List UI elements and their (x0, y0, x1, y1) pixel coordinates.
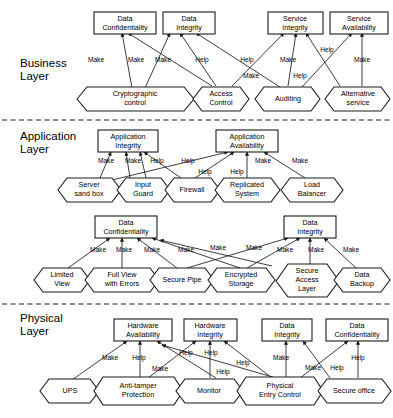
edge-label-crypto-dataint: Make (128, 56, 144, 63)
layer-label-physical-line1: Physical (20, 312, 63, 324)
goal-label-line1: Application (110, 132, 145, 141)
edge-label-pipe-dataint: Make (246, 244, 262, 251)
goal-business-service-availability[interactable]: Service Availability (330, 12, 388, 34)
goal-label-line2: Confidentiality (334, 330, 380, 339)
edge-label-entry-hwavail: Help (216, 368, 230, 376)
task-secure-office[interactable]: Secure office (318, 379, 391, 403)
edge-label-server-appavail: Help (198, 168, 212, 176)
task-data-backup[interactable]: Data Backup (334, 268, 390, 292)
edge-label-alt-servint: Help (320, 46, 334, 54)
goal-application-availability[interactable]: Application Availability (216, 130, 278, 152)
edge-label-backup-dataint: Make (343, 246, 359, 253)
goal-label-line1: Application (229, 132, 264, 141)
task-label-line2: service (347, 98, 370, 107)
task-label-line1: UPS (63, 386, 78, 395)
goal-label-line2: Integrity (282, 23, 308, 32)
goal-label-line1: Data (118, 218, 133, 227)
edge-label-audit-servavail: Help (293, 72, 307, 80)
goal-label-line1: Data (279, 321, 294, 330)
task-label-line2: Backup (350, 279, 374, 288)
goal-label-line1: Hardware (194, 321, 225, 330)
goal-model-diagram: Business Layer Data Confidentiality Data… (0, 0, 393, 418)
goal-physical-hardware-availability[interactable]: Hardware Availability (114, 319, 172, 341)
goal-label-line2: Integrity (274, 330, 300, 339)
task-cryptographic-control[interactable]: Cryptographic control (77, 87, 194, 111)
edge-label-anti-hwint: Make (152, 365, 168, 372)
task-encrypted-storage[interactable]: Encrypted Storage (208, 268, 275, 292)
task-alternative-service[interactable]: Alternative service (325, 87, 390, 111)
task-label-line1: Data (354, 270, 369, 279)
edge-label-access-dataconf: Make (155, 56, 171, 63)
goal-application-data-confidentiality[interactable]: Data Confidentiality (95, 216, 157, 238)
task-label-line1: Server (78, 180, 100, 189)
goal-application-data-integrity[interactable]: Data Integrity (284, 216, 336, 238)
goal-business-data-confidentiality[interactable]: Data Confidentiality (94, 12, 156, 34)
task-label-line1: Anti-tamper (119, 381, 157, 390)
task-secure-access-layer[interactable]: Secure Access Layer (276, 264, 339, 297)
task-label-line2: View (54, 279, 70, 288)
task-anti-tamper-protection[interactable]: Anti-tamper Protection (94, 377, 183, 405)
task-label-line1: Auditing (275, 94, 301, 103)
task-label-line1: Encrypted (225, 270, 257, 279)
task-physical-entry-control[interactable]: Physical Entry Control (237, 377, 323, 405)
goal-physical-data-integrity[interactable]: Data Integrity (262, 319, 312, 341)
edge-label-firewall-appavail: Help (230, 168, 244, 176)
goal-application-integrity[interactable]: Application Integrity (98, 130, 158, 152)
task-replicated-system[interactable]: Replicated System (215, 178, 280, 202)
goal-business-data-integrity[interactable]: Data Integrity (163, 12, 215, 34)
edge-label-pipe-dataconf: Make (144, 246, 160, 253)
edge-label-sal-dataconf: Make (210, 244, 226, 251)
goal-label-line1: Data (349, 321, 364, 330)
goal-label-line2: Integrity (176, 23, 202, 32)
edge-label-access-servint: Help (240, 56, 254, 64)
goal-label-line2: Confidentiality (102, 23, 148, 32)
task-load-balancer[interactable]: Load Balancer (281, 178, 343, 202)
edge-label-sal-dataint: Make (308, 246, 324, 253)
goal-physical-hardware-integrity[interactable]: Hardware Integrity (184, 319, 237, 341)
task-monitor[interactable]: Monitor (176, 379, 243, 403)
task-input-guard[interactable]: Input Guard (117, 178, 170, 202)
task-label-line2: control (124, 98, 146, 107)
task-server-sandbox[interactable]: Server sand box (58, 178, 121, 202)
edge-label-entry-dataint: Make (273, 354, 289, 361)
edge-label-crypto-dataconf: Make (88, 56, 104, 63)
task-label-line1: Load (304, 180, 320, 189)
task-label-line1: Physical (267, 381, 294, 390)
goal-label-line1: Data (117, 14, 132, 23)
task-full-view-with-errors[interactable]: Full View with Errors (85, 268, 159, 292)
task-label-line1: Secure Pipe (162, 275, 201, 284)
goal-label-line2: Availability (126, 330, 160, 339)
task-label-line1: Full View (107, 270, 137, 279)
edge-label-office-dataconf: Help (351, 354, 365, 362)
task-label-line3: Layer (298, 284, 317, 293)
task-limited-view[interactable]: Limited View (34, 268, 90, 292)
layer-label-business-line1: Business (20, 57, 67, 69)
task-ups[interactable]: UPS (40, 379, 99, 403)
edge-label-entry-hwint: Help (236, 359, 250, 367)
goal-label-line1: Service (283, 14, 307, 23)
goal-label-line1: Service (347, 14, 371, 23)
task-label-line1: Secure (296, 266, 319, 275)
task-label-line2: System (235, 189, 259, 198)
layer-label-physical-line2: Layer (20, 325, 49, 337)
task-access-control[interactable]: Access Control (193, 87, 249, 111)
task-label-line2: with Errors (104, 279, 140, 288)
goal-business-service-integrity[interactable]: Service Integrity (268, 12, 323, 34)
task-label-line2: Guard (133, 189, 153, 198)
task-label-line1: Limited (50, 270, 73, 279)
goal-label-line1: Data (181, 14, 196, 23)
edge-label-lb-appavail: Make (292, 157, 308, 164)
goal-physical-data-confidentiality[interactable]: Data Confidentiality (326, 319, 388, 341)
goal-label-line2: Integrity (197, 330, 223, 339)
task-label-line1: Secure office (333, 386, 375, 395)
task-label-line2: Storage (228, 279, 253, 288)
task-firewall[interactable]: Firewall (165, 178, 220, 202)
layer-label-business-line2: Layer (20, 70, 49, 82)
edge-label-office-dataint: Make (305, 364, 321, 371)
task-secure-pipe[interactable]: Secure Pipe (150, 268, 214, 292)
task-auditing[interactable]: Auditing (255, 87, 320, 111)
goal-label-line2: Availability (230, 141, 264, 150)
task-label-line1: Monitor (197, 386, 222, 395)
edge-label-encstore-dataconf: Make (178, 246, 194, 253)
edge-label-audit-servint: Make (280, 56, 296, 63)
